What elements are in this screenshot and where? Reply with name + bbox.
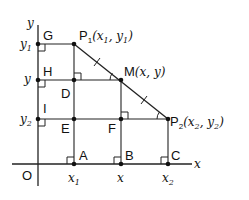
point-D (72, 78, 77, 83)
label-I: I (43, 101, 47, 116)
point-M (119, 78, 124, 83)
point-H (36, 78, 41, 83)
point-P1 (72, 42, 77, 47)
vertical-guides (74, 44, 168, 164)
angle-arc-M (110, 73, 112, 80)
point-C (166, 162, 171, 167)
label-A: A (79, 148, 88, 163)
point-B (119, 162, 124, 167)
label-B: B (125, 148, 134, 163)
point-E (72, 117, 77, 122)
point-A (72, 162, 77, 167)
label-F: F (108, 121, 116, 136)
axes (12, 25, 192, 186)
label-P2: P2(x2, y2) (170, 114, 224, 131)
label-H: H (43, 64, 52, 79)
label-G: G (43, 28, 53, 43)
label-E: E (61, 121, 70, 136)
midpoint-diagram: y x O y1 y y2 x1 x x2 G H I D E F A B C … (0, 0, 249, 200)
x-label: x (117, 171, 124, 185)
label-D: D (61, 86, 70, 101)
x1-label: x1 (68, 171, 80, 187)
y1-label: y1 (19, 37, 32, 53)
point-F (119, 117, 124, 122)
y-axis-label: y (26, 16, 34, 30)
x2-label: x2 (162, 171, 174, 187)
y2-label: y2 (19, 112, 32, 128)
point-I (36, 117, 41, 122)
label-P1: P1(x1, y1) (79, 28, 133, 45)
origin-label: O (22, 168, 32, 183)
point-G (36, 42, 41, 47)
angle-arc-P2 (157, 112, 159, 119)
tick-M-P2 (141, 96, 147, 104)
horizontal-guides (38, 44, 168, 119)
label-M: M(x, y) (124, 64, 166, 79)
label-C: C (171, 148, 180, 163)
y-label: y (23, 72, 31, 86)
x-axis-label: x (194, 157, 201, 171)
